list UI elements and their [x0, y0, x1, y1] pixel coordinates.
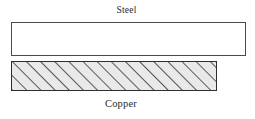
steel-layer-rect	[11, 22, 246, 56]
steel-copper-diagram: Steel Copper	[0, 0, 255, 119]
steel-label: Steel	[0, 6, 254, 16]
copper-label: Copper	[0, 99, 242, 110]
copper-layer-rect	[11, 61, 217, 91]
copper-hatch-pattern	[12, 62, 217, 91]
